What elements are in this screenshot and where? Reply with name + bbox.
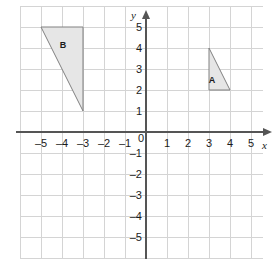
y-tick-label: –3 xyxy=(124,190,142,201)
y-axis-label: y xyxy=(131,10,136,21)
x-tick-label: –2 xyxy=(94,138,114,149)
x-tick-label: –4 xyxy=(52,138,72,149)
shape-label-a: A xyxy=(205,76,219,85)
y-tick-label: 2 xyxy=(124,85,142,96)
y-axis-arrowhead xyxy=(142,10,150,19)
x-tick-label: 5 xyxy=(241,138,261,149)
y-tick-label: –5 xyxy=(124,232,142,243)
x-tick-label: 4 xyxy=(220,138,240,149)
x-tick-label: 1 xyxy=(157,138,177,149)
x-tick-label: –3 xyxy=(73,138,93,149)
y-tick-label: 4 xyxy=(124,43,142,54)
shape-label-b: B xyxy=(56,41,70,50)
y-tick-label: –1 xyxy=(124,148,142,159)
y-tick-label: 5 xyxy=(124,22,142,33)
y-tick-label: –4 xyxy=(124,211,142,222)
y-tick-label: –2 xyxy=(124,169,142,180)
origin-label: 0 xyxy=(131,133,151,144)
coordinate-grid-figure: –5 –4 –3 –2 –1 0 1 2 3 4 5 5 4 3 2 1 –1 … xyxy=(0,0,280,265)
x-tick-label: –5 xyxy=(31,138,51,149)
y-tick-label: 3 xyxy=(124,64,142,75)
x-axis-arrowhead xyxy=(263,128,272,136)
x-tick-label: 3 xyxy=(199,138,219,149)
x-axis-label: x xyxy=(262,140,267,151)
x-tick-label: 2 xyxy=(178,138,198,149)
y-tick-label: 1 xyxy=(124,106,142,117)
